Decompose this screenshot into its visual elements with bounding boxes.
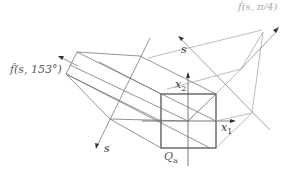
label-f-pi4: f̂(s, π/4) [238, 2, 277, 12]
x2-arrow-icon [186, 72, 190, 78]
projection-pi4 [148, 30, 278, 148]
label-s-upper: s [181, 44, 187, 55]
label-qa: Qa [164, 151, 178, 165]
projection-diagram [0, 0, 298, 177]
s-lower-arrow-icon [95, 143, 99, 149]
arrow-pi4-icon [273, 27, 279, 33]
projection-153 [60, 38, 216, 148]
label-x2: x2 [175, 79, 186, 93]
arrow-153-icon [58, 56, 64, 60]
label-x1: x1 [221, 122, 232, 136]
s-upper-arrow-icon [178, 36, 184, 41]
label-s-lower: s [104, 143, 110, 154]
label-f-153: f̂(s, 153°) [10, 64, 62, 75]
